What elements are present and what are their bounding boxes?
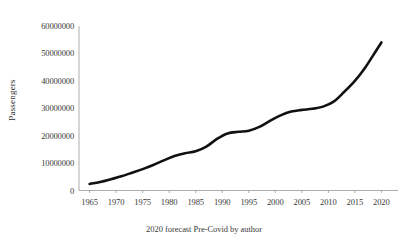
x-tick-label: 2020 — [361, 197, 401, 207]
x-axis-tick-marks — [90, 191, 382, 194]
chart-figure: Passengers 01000000020000000300000004000… — [0, 0, 408, 247]
y-tick-label: 40000000 — [41, 76, 74, 86]
y-tick-label: 10000000 — [41, 158, 74, 168]
chart-caption: 2020 forecast Pre-Covid by author — [0, 224, 408, 234]
y-tick-label: 60000000 — [41, 21, 74, 31]
y-tick-label: 30000000 — [41, 103, 74, 113]
y-tick-label: 50000000 — [41, 48, 74, 58]
plot-area — [0, 0, 408, 247]
y-tick-label: 0 — [70, 186, 74, 196]
y-tick-label: 20000000 — [41, 131, 74, 141]
data-series-line — [90, 42, 382, 183]
